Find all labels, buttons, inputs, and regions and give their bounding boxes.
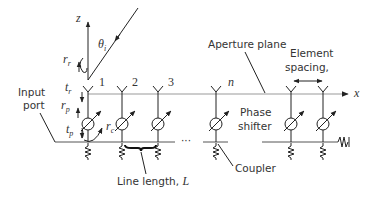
- label-t-p: tp: [66, 122, 73, 138]
- incident-wave: θi: [88, 8, 138, 80]
- element-number-2: 2: [132, 75, 138, 89]
- resistor-icon: [85, 143, 91, 160]
- z-axis-label: z: [75, 11, 81, 25]
- phase-shifter-label-line1: Phase: [240, 106, 271, 118]
- element-n: [209, 86, 229, 160]
- line-length-brace: [125, 145, 156, 151]
- element-number-1: 1: [99, 75, 105, 89]
- diagram-canvas: z θi x ···: [0, 0, 379, 200]
- element-number-3: 3: [168, 75, 174, 89]
- x-axis-label: x: [353, 86, 360, 100]
- element-1: [81, 86, 101, 160]
- array-elements: [81, 86, 336, 160]
- termination-load-icon: [338, 137, 349, 147]
- element-6: [316, 86, 336, 160]
- input-port-leader: [40, 113, 55, 142]
- feed-line: ···: [55, 134, 349, 147]
- element-spacing-label-line1: Element: [290, 47, 333, 59]
- resistor-icon: [213, 143, 219, 160]
- element-spacing-label-line2: spacing,: [285, 61, 329, 73]
- phase-shifter-label-line2: shifter: [238, 120, 272, 132]
- element-number-n: n: [228, 75, 234, 89]
- label-r-c: rc: [106, 119, 115, 135]
- aperture-plane-label: Aperture plane: [208, 38, 286, 50]
- label-r-r: rr: [63, 52, 72, 68]
- coupler-label: Coupler: [235, 162, 276, 174]
- theta-label: θi: [98, 37, 106, 53]
- element-5: [284, 86, 304, 160]
- resistor-icon: [320, 143, 326, 160]
- label-t-r: tr: [65, 80, 72, 96]
- line-length-label: Line length, L: [117, 174, 189, 188]
- resistor-icon: [288, 143, 294, 160]
- ellipsis: ···: [181, 134, 191, 146]
- aperture-plane-leader: [245, 52, 265, 93]
- coefficient-arrows: [78, 58, 102, 142]
- phased-array-diagram: z θi x ···: [0, 0, 379, 200]
- input-port-label-line1: Input: [18, 86, 45, 98]
- coupler-leader: [218, 144, 233, 166]
- input-port-label-line2: port: [23, 99, 45, 111]
- element-3: [151, 86, 171, 160]
- label-r-p: rp: [61, 98, 70, 114]
- line-length-leader: [141, 152, 146, 174]
